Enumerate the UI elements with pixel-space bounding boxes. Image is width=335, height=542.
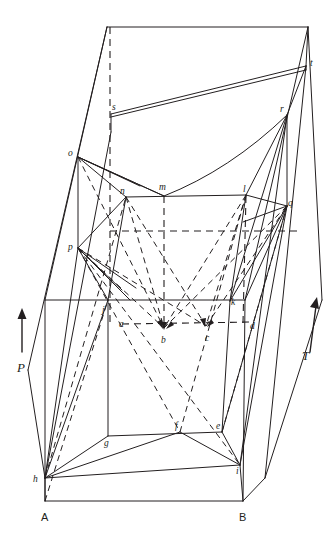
axis-t-label: T bbox=[302, 348, 310, 363]
dashed-ray-l-b bbox=[164, 195, 246, 328]
line-h-p bbox=[45, 248, 78, 478]
corner-label-B: B bbox=[239, 511, 246, 523]
point-label-n: n bbox=[120, 186, 125, 196]
point-label-g: g bbox=[104, 438, 109, 448]
axis-p-arrowhead bbox=[18, 308, 27, 319]
point-label-o: o bbox=[68, 148, 73, 158]
middle-box-solid bbox=[108, 195, 246, 301]
line-i-B bbox=[240, 465, 243, 501]
point-label-d: d bbox=[250, 321, 255, 331]
point-label-r: r bbox=[280, 104, 284, 114]
lower-box-right-edge bbox=[243, 300, 245, 501]
line-q-lowerbox-right bbox=[245, 206, 287, 300]
point-label-k: k bbox=[231, 297, 236, 307]
dashed-internal-structure bbox=[110, 27, 300, 328]
line-h-f bbox=[45, 432, 180, 478]
axis-p: P bbox=[16, 308, 27, 375]
point-label-f: f bbox=[175, 421, 179, 431]
line-s-t-upper bbox=[111, 66, 306, 114]
line-s-t-lower bbox=[111, 70, 306, 117]
dashed-ray-A-j bbox=[45, 300, 108, 501]
curve-m-r bbox=[164, 115, 287, 196]
middle-box-top-edge bbox=[126, 195, 246, 197]
point-label-b: b bbox=[161, 335, 166, 345]
axis-t-arrowhead bbox=[310, 297, 319, 309]
point-label-j: j bbox=[100, 305, 105, 315]
dashed-ray-n-c bbox=[126, 197, 206, 326]
dashed-ray-p-c bbox=[78, 248, 206, 326]
point-label-t: t bbox=[310, 58, 313, 68]
point-label-s: s bbox=[112, 102, 116, 112]
inner-box-bottom-edge bbox=[108, 432, 222, 436]
line-h-g bbox=[45, 436, 108, 478]
point-label-a: a bbox=[119, 319, 124, 329]
outer-right-bottom-edge bbox=[243, 478, 265, 501]
point-label-l: l bbox=[243, 184, 246, 194]
dashed-ray-l-c bbox=[206, 195, 246, 326]
axis-t: T bbox=[302, 297, 319, 363]
corner-label-A: A bbox=[41, 511, 49, 523]
line-h-i bbox=[45, 465, 240, 478]
line-q-e bbox=[222, 206, 287, 432]
point-label-c: c bbox=[205, 333, 210, 343]
axis-t-shaft bbox=[310, 306, 316, 352]
arrowhead-b-left bbox=[157, 319, 163, 329]
point-label-h: h bbox=[33, 474, 38, 484]
geometric-diagram: P T A B a b c d e f g h i j k l m n o p … bbox=[0, 0, 335, 542]
dashed-ray-n-b bbox=[126, 197, 164, 328]
axis-p-label: P bbox=[16, 360, 25, 375]
dashed-abcd-horizontal bbox=[122, 322, 253, 324]
line-q-l bbox=[246, 195, 287, 206]
line-o-cross bbox=[78, 157, 140, 186]
dashed-ray-c-q bbox=[206, 206, 287, 326]
point-label-i: i bbox=[236, 466, 239, 476]
point-label-e: e bbox=[216, 421, 220, 431]
figure-root: P T A B a b c d e f g h i j k l m n o p … bbox=[0, 0, 335, 542]
point-label-q: q bbox=[288, 198, 293, 208]
convergence-arrowheads bbox=[157, 318, 214, 330]
inner-box-right-edge bbox=[222, 301, 230, 432]
line-h-j bbox=[45, 300, 108, 478]
point-label-m: m bbox=[159, 182, 166, 192]
outer-left-lower-edge bbox=[28, 370, 45, 478]
dashed-ray-o-b bbox=[78, 157, 164, 328]
point-label-p: p bbox=[67, 242, 73, 252]
